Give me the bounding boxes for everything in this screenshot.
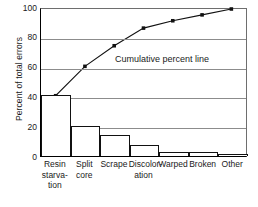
x-tick-label-broken: Broken: [188, 159, 218, 170]
y-axis-tick-labels: 100806040200: [14, 0, 37, 207]
y-tick-label-60: 60: [17, 63, 37, 72]
bar-resin-starvation: [41, 95, 71, 156]
gridline-60: [41, 69, 246, 70]
x-tick-label-warped: Warped: [158, 159, 188, 170]
x-axis-tick-labels: Resinstarva-tionSplitcoreScrapeDiscolor-…: [40, 159, 247, 205]
plot-area: Cumulative percent line: [40, 8, 247, 157]
cumulative-line-annotation: Cumulative percent line: [115, 54, 209, 64]
bar-discoloration: [130, 145, 160, 156]
gridline-40: [41, 98, 246, 99]
bar-split-core: [71, 126, 101, 156]
x-tick-label-scrape: Scrape: [99, 159, 129, 170]
x-tick-label-discoloration: Discolor-ation: [129, 159, 159, 180]
bar-other: [218, 154, 248, 156]
x-tick-label-split-core: Splitcore: [70, 159, 100, 180]
y-tick-label-80: 80: [17, 33, 37, 42]
y-tick-label-100: 100: [17, 4, 37, 13]
bar-warped: [159, 152, 189, 156]
bar-scrape: [100, 135, 130, 156]
y-tick-label-0: 0: [17, 153, 37, 162]
x-tick-label-resin-starvation: Resinstarva-tion: [40, 159, 70, 191]
x-tick-label-other: Other: [217, 159, 247, 170]
cumulative-marker-3: [142, 26, 146, 30]
cumulative-marker-1: [83, 65, 87, 69]
cumulative-polyline: [41, 9, 231, 96]
cumulative-marker-4: [171, 19, 175, 23]
y-tick-label-40: 40: [17, 93, 37, 102]
pareto-chart: Percent of total errors 100806040200 Cum…: [0, 0, 258, 207]
cumulative-marker-2: [112, 44, 116, 48]
bar-broken: [189, 152, 219, 156]
cumulative-marker-5: [200, 13, 204, 17]
cumulative-marker-6: [230, 7, 234, 11]
gridline-80: [41, 39, 246, 40]
y-tick-label-20: 20: [17, 123, 37, 132]
